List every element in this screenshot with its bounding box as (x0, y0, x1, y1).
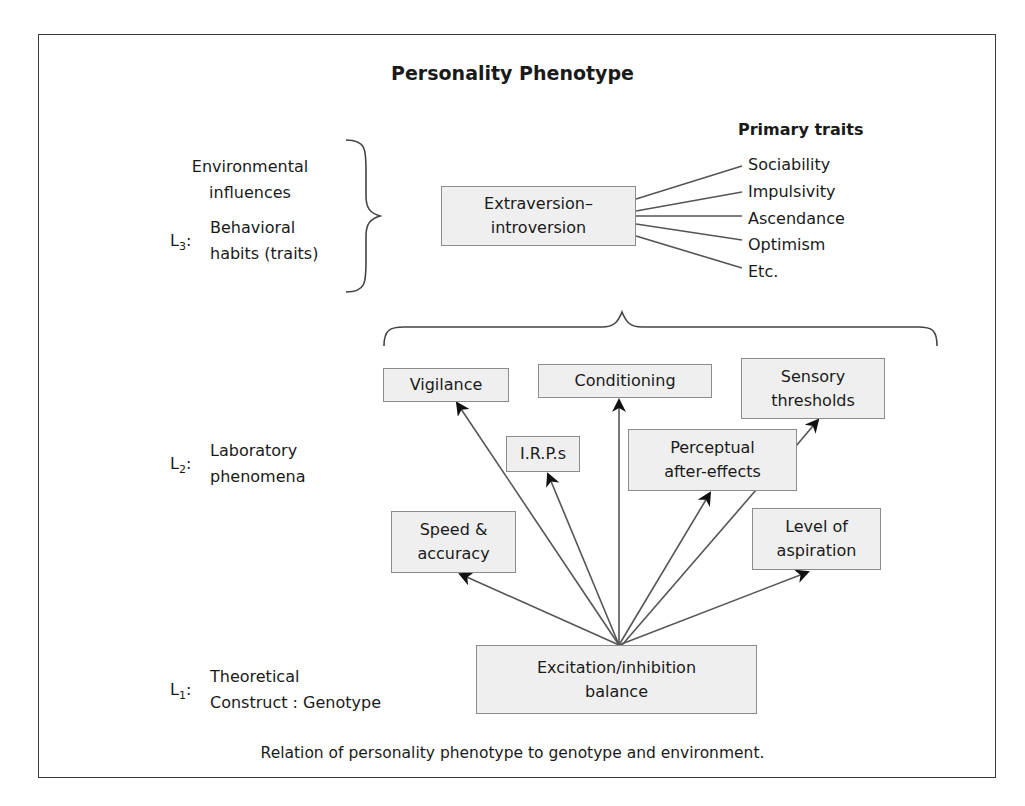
trait-sociability: Sociability (748, 152, 830, 178)
speed-accuracy-box: Speed & accuracy (391, 511, 516, 573)
excitation-inhibition-box: Excitation/inhibition balance (476, 645, 757, 714)
trait-impulsivity: Impulsivity (748, 179, 835, 205)
perceptual-after-effects-box: Perceptual after-effects (628, 429, 797, 491)
trait-etc: Etc. (748, 259, 778, 285)
level-of-aspiration-box: Level of aspiration (752, 508, 881, 570)
vigilance-box: Vigilance (383, 368, 509, 402)
sensory-thresholds-box: Sensory thresholds (741, 358, 885, 419)
figure-caption: Relation of personality phenotype to gen… (0, 744, 1025, 762)
extraversion-introversion-box: Extraversion– introversion (441, 186, 636, 246)
conditioning-box: Conditioning (538, 364, 712, 398)
trait-ascendance: Ascendance (748, 206, 845, 232)
l3-brace (346, 140, 380, 292)
irps-box: I.R.P.s (506, 436, 580, 472)
trait-optimism: Optimism (748, 232, 825, 258)
l2-brace (384, 312, 937, 346)
primary-traits-header: Primary traits (738, 120, 863, 139)
environmental-influences-label: Environmental influences (155, 154, 345, 206)
